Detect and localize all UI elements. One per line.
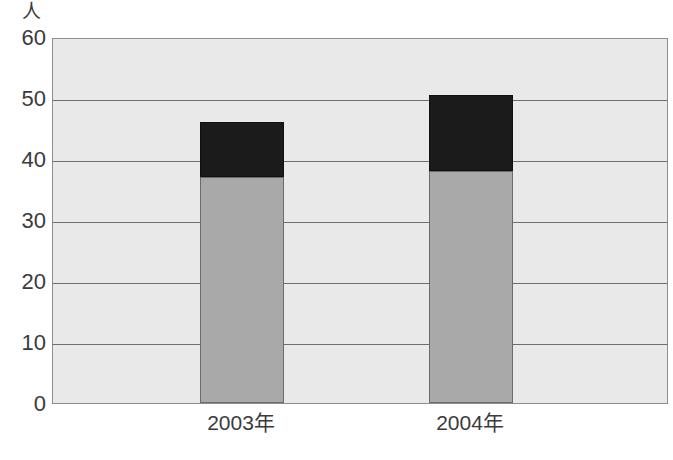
gridline [53,161,667,162]
plot-area [52,38,668,404]
y-axis-tick-label: 40 [0,149,46,171]
bar-segment-upper-segment [429,95,513,171]
bar-segment-upper-segment [200,122,284,177]
y-axis-tick-label: 10 [0,332,46,354]
y-axis-tick-label: 30 [0,210,46,232]
y-axis-tick-label: 50 [0,88,46,110]
gridline [53,222,667,223]
y-axis-tick-label: 0 [0,393,46,415]
gridline [53,100,667,101]
bar-segment-lower-segment [200,177,284,403]
x-axis-tick-label: 2004年 [410,412,530,433]
y-axis-tick-label: 20 [0,271,46,293]
plot-inner [53,39,667,403]
gridline [53,283,667,284]
stacked-bar-chart: 人 0102030405060 2003年2004年 [0,0,673,460]
y-axis-tick-label: 60 [0,27,46,49]
bar-segment-lower-segment [429,171,513,403]
bar-2003年 [200,122,284,403]
x-axis-tick-label: 2003年 [181,412,301,433]
bar-2004年 [429,95,513,403]
gridline [53,344,667,345]
y-axis-tick-labels: 0102030405060 [0,0,46,460]
